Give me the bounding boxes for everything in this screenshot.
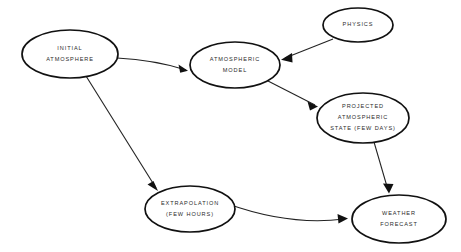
node-outline [352, 195, 446, 243]
edge-line [117, 58, 186, 70]
edge-line [268, 81, 315, 105]
edge-line [285, 39, 333, 58]
arrowhead-icon [179, 65, 189, 73]
node-label-line: STATE (FEW DAYS) [330, 125, 396, 131]
node-projected-atmospheric-state[interactable]: PROJECTEDATMOSPHERICSTATE (FEW DAYS) [317, 93, 409, 143]
node-weather-forecast[interactable]: WEATHERFORECAST [352, 195, 446, 243]
node-outline [145, 186, 235, 232]
edge-initial-atmosphere-to-atmospheric-model [117, 58, 188, 73]
node-label-line: MODEL [223, 67, 247, 73]
diagram-canvas: INITIALATMOSPHEREATMOSPHERICMODELPHYSICS… [0, 0, 461, 252]
node-label-line: WEATHER [382, 210, 416, 216]
node-label-line: ATMOSPHERE [46, 56, 94, 62]
node-outline [190, 42, 280, 88]
edge-physics-to-atmospheric-model [281, 39, 333, 63]
edge-initial-atmosphere-to-extrapolation [86, 76, 158, 191]
node-outline [22, 30, 118, 78]
node-extrapolation[interactable]: EXTRAPOLATION(FEW HOURS) [145, 186, 235, 232]
node-physics[interactable]: PHYSICS [323, 8, 393, 42]
edge-projected-state-to-weather-forecast [374, 142, 394, 194]
arrowhead-icon [383, 184, 394, 194]
node-label-line: (FEW HOURS) [166, 211, 214, 217]
node-label-line: PHYSICS [343, 21, 374, 27]
edge-line [228, 204, 344, 221]
node-label-line: ATMOSPHERIC [338, 114, 389, 120]
nodes-layer: INITIALATMOSPHEREATMOSPHERICMODELPHYSICS… [22, 8, 446, 243]
node-initial-atmosphere[interactable]: INITIALATMOSPHERE [22, 30, 118, 78]
node-label-line: EXTRAPOLATION [161, 200, 219, 206]
arrowhead-icon [338, 214, 349, 224]
node-label-line: FORECAST [380, 221, 418, 227]
node-label-line: PROJECTED [342, 103, 384, 109]
edge-atmospheric-model-to-projected-state [268, 81, 318, 111]
node-label-line: INITIAL [57, 45, 82, 51]
node-label-line: ATMOSPHERIC [210, 56, 261, 62]
weather-forecast-diagram: INITIALATMOSPHEREATMOSPHERICMODELPHYSICS… [0, 0, 461, 252]
edge-line [86, 76, 156, 188]
arrowhead-icon [148, 181, 159, 191]
arrowhead-icon [281, 53, 293, 63]
node-atmospheric-model[interactable]: ATMOSPHERICMODEL [190, 42, 280, 88]
edge-line [374, 142, 388, 190]
arrowhead-icon [308, 102, 319, 111]
edge-extrapolation-to-weather-forecast [228, 204, 348, 224]
